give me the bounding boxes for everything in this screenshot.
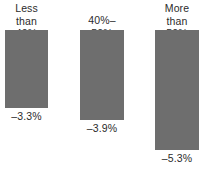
bar-chart: Less than 40% –3.3% 40%–50% –3.9% More t… [0, 0, 210, 170]
value-label-less-than-40: –3.3% [5, 110, 48, 122]
bar-more-than-50 [155, 30, 199, 150]
bar-group-40-to-50: 40%–50% –3.9% [80, 0, 124, 170]
bar-less-than-40 [5, 30, 48, 108]
value-label-40-to-50: –3.9% [80, 122, 124, 134]
bar-40-to-50 [80, 30, 124, 120]
bar-group-more-than-50: More than 50% –5.3% [155, 0, 199, 170]
value-label-more-than-50: –5.3% [155, 152, 199, 164]
bar-group-less-than-40: Less than 40% –3.3% [5, 0, 48, 170]
